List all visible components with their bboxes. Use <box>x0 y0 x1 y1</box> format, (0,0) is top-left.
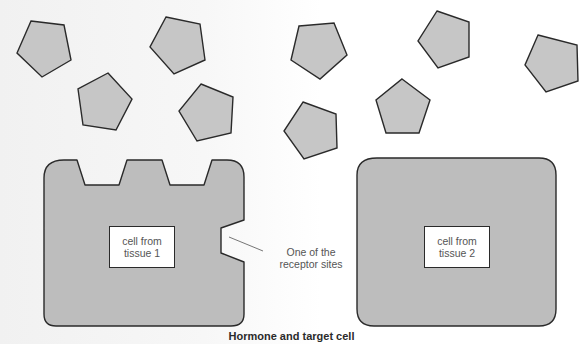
nucleus-label-tissue-1: cell from tissue 1 <box>122 235 162 259</box>
hormone-pentagon <box>150 17 205 74</box>
nucleus-tissue-2: cell from tissue 2 <box>424 226 490 268</box>
hormone-pentagon <box>78 73 132 130</box>
diagram-canvas: cell from tissue 1 cell from tissue 2 On… <box>0 0 583 344</box>
diagram-graphics <box>0 0 583 344</box>
annotation-leader-line <box>229 237 263 251</box>
hormone-pentagon <box>284 102 337 159</box>
hormone-pentagon <box>418 11 469 68</box>
hormone-molecules <box>17 11 578 159</box>
nucleus-tissue-1: cell from tissue 1 <box>109 226 175 268</box>
hormone-pentagon <box>179 84 233 141</box>
receptor-site-annotation: One of the receptor sites <box>266 246 356 270</box>
hormone-pentagon <box>291 23 347 79</box>
nucleus-label-tissue-2: cell from tissue 2 <box>437 235 477 259</box>
hormone-pentagon <box>17 21 71 77</box>
hormone-pentagon <box>376 79 430 133</box>
hormone-pentagon <box>525 35 578 92</box>
figure-caption: Hormone and target cell <box>0 330 583 342</box>
